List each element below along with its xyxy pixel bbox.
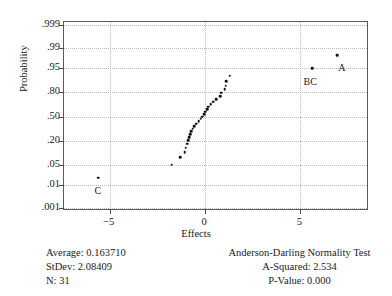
data-point-label: BC (304, 76, 317, 87)
y-axis-tick-label: .99 (47, 41, 60, 52)
y-axis-tick (59, 48, 64, 49)
gridline-vertical (300, 22, 301, 209)
statistic-row: Average: 0.163710 (46, 246, 126, 260)
x-axis-tick-label: −5 (103, 217, 114, 228)
data-point[interactable] (97, 177, 100, 180)
data-point[interactable] (186, 142, 189, 145)
data-point[interactable] (197, 120, 200, 123)
y-axis-tick (59, 165, 64, 166)
y-axis-tick-label: .50 (47, 110, 60, 121)
data-point[interactable] (215, 98, 218, 101)
y-axis-tick (59, 185, 64, 186)
data-point[interactable] (220, 92, 223, 95)
statistic-row: StDev: 2.08409 (46, 260, 126, 274)
data-point[interactable] (311, 67, 314, 70)
descriptive-statistics: Average: 0.163710StDev: 2.08409N: 31 (46, 246, 126, 288)
data-point[interactable] (200, 118, 203, 121)
data-point[interactable] (170, 164, 173, 167)
y-axis-tick-label: .20 (47, 135, 60, 146)
data-point-label: A (338, 62, 345, 73)
data-point[interactable] (219, 95, 222, 98)
y-axis-tick (59, 92, 64, 93)
data-point[interactable] (195, 122, 198, 125)
x-axis-title: Effects (0, 228, 392, 239)
y-axis-tick (59, 68, 64, 69)
chart-footer: Average: 0.163710StDev: 2.08409N: 31 And… (0, 246, 392, 296)
data-point[interactable] (183, 151, 186, 154)
data-point[interactable] (189, 133, 192, 136)
gridline-vertical (205, 22, 206, 209)
data-point[interactable] (203, 113, 206, 116)
data-point[interactable] (207, 106, 210, 109)
data-point[interactable] (225, 80, 228, 83)
test-result-row: P-Value: 0.000 (212, 274, 387, 288)
data-point[interactable] (187, 139, 190, 142)
data-point[interactable] (190, 130, 193, 133)
statistic-row: N: 31 (46, 274, 126, 288)
x-axis-tick (110, 209, 111, 214)
data-point[interactable] (193, 125, 196, 128)
data-point[interactable] (224, 84, 227, 87)
x-axis-tick-label: 0 (201, 217, 206, 228)
data-point-label: C (95, 185, 102, 196)
y-axis-tick-label: .999 (42, 19, 60, 30)
plot-area: CBCA (63, 21, 368, 210)
data-point[interactable] (201, 115, 204, 118)
x-axis-tick (300, 209, 301, 214)
data-point[interactable] (229, 74, 232, 77)
anderson-darling-test: Anderson-Darling Normality TestA-Squared… (212, 246, 387, 288)
test-result-row: Anderson-Darling Normality Test (212, 246, 387, 260)
test-result-row: A-Squared: 2.534 (212, 260, 387, 274)
x-axis-tick (205, 209, 206, 214)
y-axis-tick (59, 208, 64, 209)
data-point[interactable] (185, 146, 188, 149)
y-axis-tick (59, 25, 64, 26)
data-point[interactable] (212, 100, 215, 103)
x-axis-tick-label: 5 (297, 217, 302, 228)
data-point[interactable] (204, 110, 207, 113)
gridline-vertical (110, 22, 111, 209)
y-axis-tick (59, 141, 64, 142)
data-point[interactable] (206, 108, 209, 111)
data-point[interactable] (209, 103, 212, 106)
data-point[interactable] (223, 88, 226, 91)
y-axis-tick (59, 117, 64, 118)
y-axis-tick-label: .95 (47, 62, 60, 73)
plot-canvas: CBCA (64, 22, 367, 209)
data-point[interactable] (179, 156, 182, 159)
y-axis-tick-label: .80 (47, 85, 60, 96)
y-axis-tick-label: .05 (47, 159, 60, 170)
normal-probability-plot: Probability .999.99.95.80.50.20.05.01.00… (0, 0, 392, 296)
data-point[interactable] (188, 136, 191, 139)
y-axis-tick-label: .001 (42, 202, 60, 213)
data-point[interactable] (336, 54, 339, 57)
y-axis-tick-label: .01 (47, 179, 60, 190)
data-point[interactable] (192, 127, 195, 130)
y-axis-title: Probability (18, 45, 29, 92)
